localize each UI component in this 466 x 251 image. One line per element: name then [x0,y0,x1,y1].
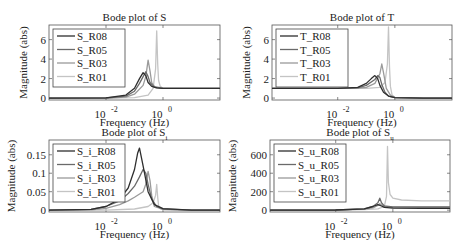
y-tick-label: 400 [251,167,268,179]
x-tick-exponent: 0 [168,217,172,226]
panel-s-u: 020040060010-2100S_u_R08S_u_R05S_u_R03S_… [226,126,450,241]
legend-label: S_R03 [77,57,107,69]
y-tick-label: 0 [262,204,268,216]
legend-label: T_R05 [300,44,331,56]
y-tick-label: 6 [41,34,47,46]
panel-t: 024610-2100T_R08T_R05T_R03T_R01Bode plot… [240,11,452,129]
y-tick-label: 0 [41,92,47,104]
legend-label: S_u_R01 [298,186,339,198]
legend-label: S_R01 [77,71,107,83]
legend-label: S_u_R03 [298,172,339,184]
x-tick-exponent: -2 [341,217,348,226]
x-tick-exponent: 0 [168,105,172,114]
legend-label: S_i_R05 [77,159,116,171]
legend-label: S_i_R08 [77,145,116,157]
y-axis-label: Magnitude (abs) [240,26,253,99]
legend-label: S_R08 [77,30,107,42]
legend-label: S_u_R05 [298,159,339,171]
panel-s: 024610-2100S_R08S_R05S_R03S_R01Bode plot… [17,11,220,129]
y-tick-label: 0.15 [27,149,47,161]
y-axis-label: Magnitude (abs) [226,139,239,212]
x-tick-exponent: -2 [343,105,350,114]
legend-label: S_R05 [77,44,107,56]
y-tick-label: 0 [41,204,47,216]
y-tick-label: 2 [41,73,47,85]
x-tick-exponent: -2 [111,217,118,226]
x-axis-label: Frequency (Hz) [100,228,170,241]
bode-figure: 024610-2100S_R08S_R05S_R03S_R01Bode plot… [0,0,466,251]
y-axis-label: Magnitude (abs) [17,26,30,99]
panel-s-i: 00.050.10.1510-2100S_i_R08S_i_R05S_i_R03… [5,126,220,241]
y-tick-label: 2 [264,73,270,85]
y-tick-label: 4 [264,53,270,65]
legend-label: S_u_R08 [298,145,339,157]
y-axis-label: Magnitude (abs) [5,139,18,212]
y-tick-label: 0 [264,92,270,104]
y-tick-label: 4 [41,53,47,65]
x-tick-exponent: 0 [398,217,402,226]
chart-title: Bode plot of T [330,11,395,23]
y-tick-label: 600 [251,149,268,161]
y-tick-label: 200 [251,186,268,198]
legend-label: S_i_R01 [77,186,116,198]
y-tick-label: 0.1 [32,167,46,179]
x-axis-label: Frequency (Hz) [325,228,395,241]
y-tick-label: 6 [264,34,270,46]
legend-label: T_R03 [300,57,331,69]
x-tick-exponent: 0 [400,105,404,114]
x-tick-exponent: -2 [111,105,118,114]
y-tick-label: 0.05 [27,186,47,198]
chart-title: Bode plot of S [103,11,167,23]
legend-label: T_R01 [300,71,331,83]
legend-label: S_i_R03 [77,172,116,184]
legend-label: T_R08 [300,30,331,42]
